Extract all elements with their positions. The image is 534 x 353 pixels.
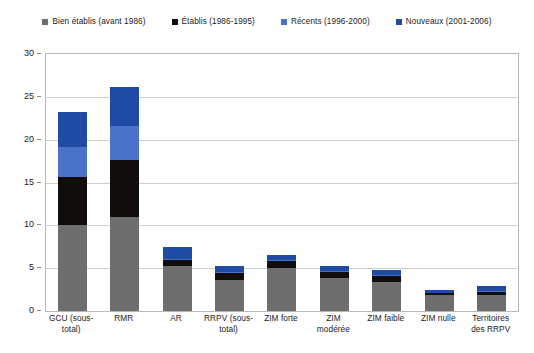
y-axis: 051015202530 [0, 53, 41, 311]
bar-stack[interactable] [215, 266, 244, 311]
x-tick-label: ZIM modérée [309, 313, 359, 334]
x-tick-label: GCU (sous- total) [46, 313, 96, 334]
y-tick-mark [37, 182, 41, 183]
bar-column [467, 54, 517, 311]
x-tick-label: Territoires des RRPV [466, 313, 516, 334]
bar-stack[interactable] [58, 112, 87, 311]
bar-stack[interactable] [372, 270, 401, 311]
x-tick-label: RRPV (sous- total) [204, 313, 254, 334]
bar-column [205, 54, 255, 311]
y-tick-label: 0 [29, 306, 34, 315]
bar-stack[interactable] [320, 266, 349, 311]
x-tick-label: RMR [99, 313, 149, 324]
legend-swatch-icon [42, 19, 48, 25]
bar-segment [425, 295, 454, 311]
plot-area [45, 53, 519, 312]
x-tick-label: ZIM faible [361, 313, 411, 324]
bar-segment [477, 295, 506, 311]
bar-segment [58, 147, 87, 176]
bar-segment [215, 280, 244, 311]
bar-column [362, 54, 412, 311]
bar-stack[interactable] [163, 247, 192, 311]
y-tick-label: 25 [24, 91, 34, 100]
bar-column [100, 54, 150, 311]
legend-item-nouveaux: Nouveaux (2001-2006) [396, 17, 492, 27]
legend-swatch-icon [281, 19, 287, 25]
legend-item-bien-etablis: Bien établis (avant 1986) [42, 17, 145, 27]
y-tick-label: 10 [24, 220, 34, 229]
legend-label: Établis (1986-1995) [182, 17, 255, 27]
y-tick-mark [37, 139, 41, 140]
bar-segment [163, 247, 192, 259]
y-tick-label: 20 [24, 134, 34, 143]
bar-segment [110, 217, 139, 311]
bar-segment [58, 225, 87, 311]
y-tick-mark [37, 267, 41, 268]
y-tick-mark [37, 96, 41, 97]
legend-label: Bien établis (avant 1986) [52, 17, 145, 27]
legend-swatch-icon [396, 19, 402, 25]
bar-segment [267, 261, 296, 268]
bar-segment [372, 282, 401, 311]
bar-column [257, 54, 307, 311]
legend-label: Nouveaux (2001-2006) [406, 17, 492, 27]
y-tick-mark [37, 310, 41, 311]
bar-segment [320, 278, 349, 311]
bar-column [310, 54, 360, 311]
legend-item-recents: Récents (1996-2000) [281, 17, 370, 27]
bar-segment [267, 268, 296, 311]
y-tick-mark [37, 53, 41, 54]
x-tick-label: ZIM nulle [414, 313, 464, 324]
x-tick-label: ZIM forte [256, 313, 306, 324]
bar-segment [110, 160, 139, 217]
x-axis: GCU (sous- total)RMRARRRPV (sous- total)… [45, 313, 517, 351]
y-tick-mark [37, 224, 41, 225]
bar-stack[interactable] [110, 87, 139, 311]
y-tick-label: 5 [29, 263, 34, 272]
legend-item-etablis: Établis (1986-1995) [172, 17, 255, 27]
bars-layer [46, 54, 518, 311]
bar-stack[interactable] [477, 286, 506, 311]
bar-segment [58, 112, 87, 147]
bar-segment [110, 87, 139, 126]
legend-swatch-icon [172, 19, 178, 25]
chart-legend: Bien établis (avant 1986) Établis (1986-… [0, 14, 534, 30]
bar-column [415, 54, 465, 311]
bar-segment [215, 273, 244, 280]
legend-label: Récents (1996-2000) [291, 17, 370, 27]
stacked-bar-chart: Bien établis (avant 1986) Établis (1986-… [0, 0, 534, 353]
bar-segment [163, 266, 192, 311]
bar-segment [58, 177, 87, 226]
y-tick-label: 30 [24, 49, 34, 58]
x-tick-label: AR [151, 313, 201, 324]
bar-segment [110, 126, 139, 160]
bar-column [47, 54, 97, 311]
bar-column [152, 54, 202, 311]
y-tick-label: 15 [24, 177, 34, 186]
bar-stack[interactable] [425, 290, 454, 311]
bar-stack[interactable] [267, 255, 296, 312]
